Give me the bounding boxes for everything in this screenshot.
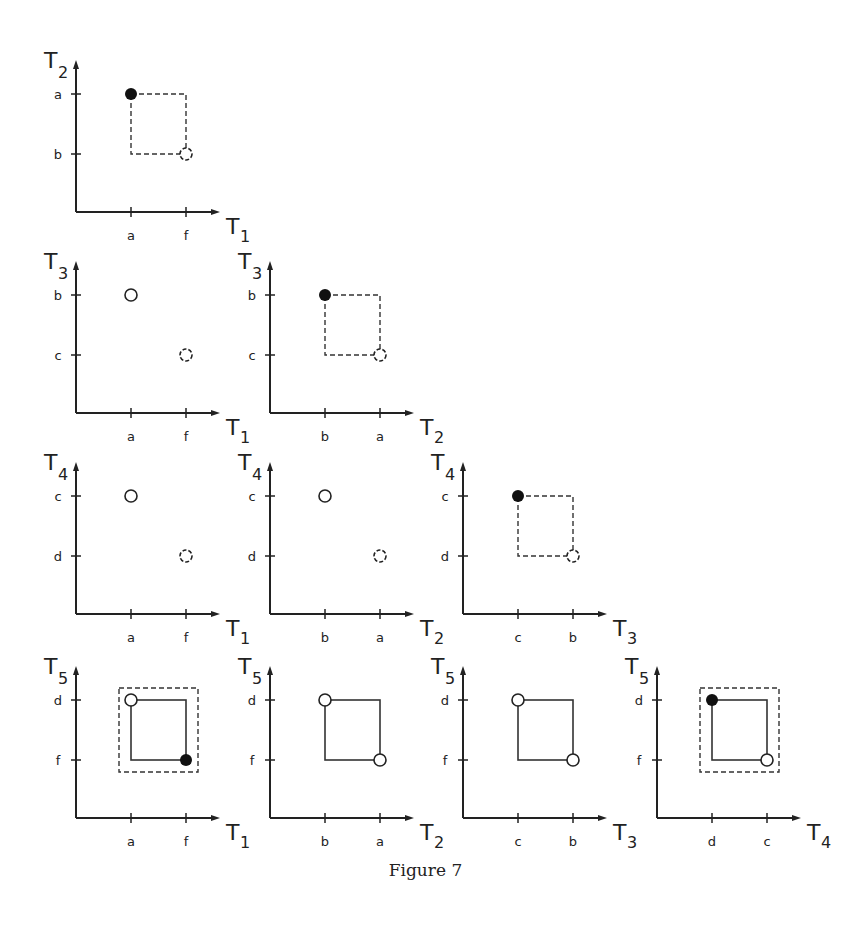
svg-text:2: 2 (434, 629, 444, 648)
x-tick-label: a (127, 228, 135, 243)
y-axis-title: T (237, 249, 252, 274)
open-point-icon (180, 550, 192, 562)
x-tick-label: b (569, 630, 577, 645)
svg-text:1: 1 (240, 629, 250, 648)
open-point-icon (374, 754, 386, 766)
y-tick-label: b (54, 147, 62, 162)
x-axis-title: T (225, 616, 240, 641)
panel-T5-vs-T3: cbdfT3T5 (430, 654, 637, 852)
svg-text:1: 1 (240, 227, 250, 246)
svg-text:4: 4 (252, 465, 262, 484)
x-tick-label: a (376, 834, 384, 849)
y-tick-label: f (443, 753, 448, 768)
x-axis-title: T (225, 415, 240, 440)
y-tick-label: d (441, 693, 449, 708)
open-point-icon (319, 694, 331, 706)
y-tick-label: c (441, 489, 448, 504)
x-tick-label: a (376, 630, 384, 645)
figure-caption: Figure 7 (0, 860, 851, 880)
solid-rectangle (131, 700, 186, 760)
panel-T5-vs-T1: afdfT1T5 (43, 654, 250, 852)
svg-text:5: 5 (639, 669, 649, 688)
panel-T4-vs-T1: afcdT1T4 (43, 450, 250, 648)
x-arrow-icon (405, 410, 414, 416)
y-arrow-icon (267, 261, 273, 270)
dashed-rectangle (131, 94, 186, 154)
y-axis-title: T (430, 654, 445, 679)
y-tick-label: b (54, 288, 62, 303)
open-point-icon (567, 550, 579, 562)
x-tick-label: a (127, 429, 135, 444)
y-axis-title: T (43, 450, 58, 475)
panel-T4-vs-T2: bacdT2T4 (237, 450, 444, 648)
x-arrow-icon (405, 815, 414, 821)
figure-7-diagram: afabT1T2afbcT1T3babcT2T3afcdT1T4bacdT2T4… (0, 0, 851, 932)
x-arrow-icon (211, 410, 220, 416)
y-arrow-icon (654, 666, 660, 675)
open-point-icon (567, 754, 579, 766)
y-arrow-icon (460, 666, 466, 675)
open-point-icon (125, 694, 137, 706)
x-tick-label: a (376, 429, 384, 444)
y-tick-label: c (54, 348, 61, 363)
x-axis-title: T (612, 820, 627, 845)
x-tick-label: b (321, 429, 329, 444)
svg-text:2: 2 (434, 428, 444, 447)
x-arrow-icon (211, 611, 220, 617)
solid-rectangle (325, 700, 380, 760)
svg-text:4: 4 (58, 465, 68, 484)
x-tick-label: f (184, 429, 189, 444)
x-tick-label: d (708, 834, 716, 849)
x-tick-label: a (127, 630, 135, 645)
svg-text:5: 5 (252, 669, 262, 688)
panel-T3-vs-T1: afbcT1T3 (43, 249, 250, 447)
svg-text:3: 3 (58, 264, 68, 283)
y-axis-title: T (43, 48, 58, 73)
y-tick-label: d (635, 693, 643, 708)
x-axis-title: T (419, 616, 434, 641)
y-arrow-icon (267, 462, 273, 471)
svg-text:3: 3 (627, 629, 637, 648)
panel-T2-vs-T1: afabT1T2 (43, 48, 250, 246)
y-tick-label: d (248, 693, 256, 708)
x-axis-title: T (225, 214, 240, 239)
y-axis-title: T (43, 249, 58, 274)
y-tick-label: d (54, 693, 62, 708)
x-arrow-icon (405, 611, 414, 617)
dashed-rectangle (518, 496, 573, 556)
solid-rectangle (518, 700, 573, 760)
x-tick-label: b (321, 630, 329, 645)
y-axis-title: T (237, 450, 252, 475)
y-tick-label: b (248, 288, 256, 303)
y-arrow-icon (73, 666, 79, 675)
x-arrow-icon (598, 815, 607, 821)
y-arrow-icon (73, 462, 79, 471)
y-tick-label: f (250, 753, 255, 768)
open-point-icon (125, 490, 137, 502)
panel-T5-vs-T2: badfT2T5 (237, 654, 444, 852)
x-arrow-icon (792, 815, 801, 821)
svg-text:5: 5 (445, 669, 455, 688)
y-tick-label: a (54, 87, 62, 102)
y-axis-title: T (43, 654, 58, 679)
svg-text:2: 2 (434, 833, 444, 852)
x-tick-label: c (514, 834, 521, 849)
y-tick-label: d (248, 549, 256, 564)
filled-point-icon (512, 490, 524, 502)
panel-T4-vs-T3: cbcdT3T4 (430, 450, 637, 648)
filled-point-icon (180, 754, 192, 766)
y-tick-label: f (637, 753, 642, 768)
y-arrow-icon (460, 462, 466, 471)
svg-text:4: 4 (445, 465, 455, 484)
x-tick-label: f (184, 630, 189, 645)
y-arrow-icon (73, 60, 79, 69)
filled-point-icon (125, 88, 137, 100)
x-axis-title: T (419, 415, 434, 440)
y-axis-title: T (237, 654, 252, 679)
x-axis-title: T (806, 820, 821, 845)
open-point-icon (125, 289, 137, 301)
y-tick-label: c (248, 489, 255, 504)
open-point-icon (374, 349, 386, 361)
filled-point-icon (319, 289, 331, 301)
panel-T3-vs-T2: babcT2T3 (237, 249, 444, 447)
